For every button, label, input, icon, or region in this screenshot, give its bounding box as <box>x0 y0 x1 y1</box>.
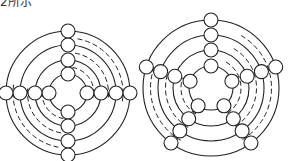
node-circle <box>183 74 197 88</box>
node-circle <box>235 124 249 138</box>
node-circle <box>61 148 75 161</box>
node-circle <box>61 67 75 81</box>
four-way-ring-diagram <box>0 24 137 161</box>
node-circle <box>61 105 75 119</box>
node-circle <box>61 24 75 38</box>
node-circle <box>204 13 218 27</box>
node-circle <box>244 136 258 150</box>
node-circle <box>204 28 218 42</box>
node-circle <box>61 134 75 148</box>
node-circle <box>217 99 231 113</box>
node-circle <box>109 86 123 100</box>
node-circle <box>94 86 108 100</box>
node-circle <box>182 112 196 126</box>
ring-diagrams <box>0 0 293 161</box>
node-circle <box>154 65 168 79</box>
node-circle <box>61 53 75 67</box>
node-circle <box>61 119 75 133</box>
node-circle <box>139 60 153 74</box>
node-circle <box>28 86 42 100</box>
node-circle <box>226 112 240 126</box>
node-circle <box>123 86 137 100</box>
node-circle <box>225 74 239 88</box>
node-circle <box>164 136 178 150</box>
five-way-ring-diagram <box>139 13 282 156</box>
node-circle <box>269 60 283 74</box>
node-circle <box>204 43 218 57</box>
node-circle <box>173 124 187 138</box>
node-circle <box>13 86 27 100</box>
node-circle <box>0 86 13 100</box>
node-circle <box>80 86 94 100</box>
node-circle <box>61 38 75 52</box>
node-circle <box>240 69 254 83</box>
node-circle <box>204 59 218 73</box>
node-circle <box>254 65 268 79</box>
node-circle <box>42 86 56 100</box>
node-circle <box>168 69 182 83</box>
node-circle <box>191 99 205 113</box>
